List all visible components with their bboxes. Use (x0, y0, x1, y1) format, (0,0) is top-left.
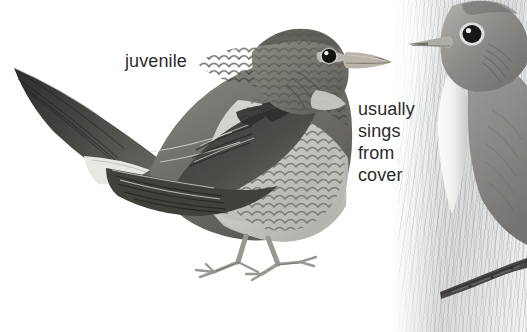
illustration-plate: juvenile usually sings from cover (0, 0, 527, 332)
juvenile-label: juvenile (125, 51, 187, 72)
legs (196, 236, 316, 280)
behavior-note-label: usually sings from cover (358, 98, 415, 186)
juvenile-bird (0, 0, 527, 332)
